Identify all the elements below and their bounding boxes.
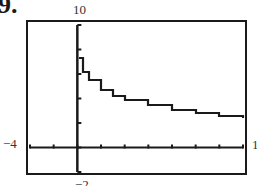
axes bbox=[30, 25, 243, 172]
graph-window bbox=[0, 0, 257, 186]
function-curve bbox=[79, 58, 243, 118]
plot-frame bbox=[27, 21, 246, 174]
